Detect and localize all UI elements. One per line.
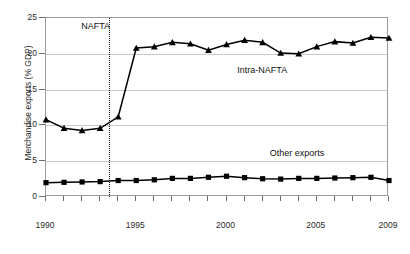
data-point-marker	[116, 178, 121, 183]
data-point-marker	[170, 176, 175, 181]
x-axis-tick-mark	[63, 196, 64, 201]
x-axis-tick-mark	[207, 196, 208, 201]
x-axis-tick-label: 2009	[363, 220, 410, 230]
data-point-marker	[314, 176, 319, 181]
y-axis-tick-label: 15	[9, 84, 37, 94]
data-point-marker	[43, 116, 50, 122]
series-line-intra-nafta	[46, 37, 389, 130]
x-axis-tick-mark	[244, 196, 245, 201]
x-axis-tick-mark	[45, 196, 46, 201]
x-axis-tick-label: 1990	[20, 220, 70, 230]
data-point-marker	[242, 175, 247, 180]
x-axis-tick-mark	[280, 196, 281, 201]
series-line-other-exports	[46, 176, 389, 182]
x-axis-tick-mark	[352, 196, 353, 201]
data-point-marker	[134, 178, 139, 183]
y-axis-tick-label: 5	[9, 155, 37, 165]
x-axis-tick-mark	[388, 196, 389, 201]
other-exports-series-label: Other exports	[270, 148, 325, 158]
chart-container: Merchandise exports (% GDP) 0510152025 N…	[0, 0, 410, 254]
y-axis-tick-label: 20	[9, 48, 37, 58]
data-point-marker	[296, 176, 301, 181]
data-point-marker	[368, 175, 373, 180]
x-axis-tick-mark	[171, 196, 172, 201]
y-axis-tick-label: 25	[9, 12, 37, 22]
intra-nafta-series-label: Intra-NAFTA	[237, 65, 287, 75]
nafta-vertical-line	[109, 18, 110, 197]
data-point-marker	[61, 180, 66, 185]
x-axis-tick-label: 2000	[201, 220, 251, 230]
data-point-marker	[80, 179, 85, 184]
data-point-marker	[278, 177, 283, 182]
plot-area: NAFTA Intra-NAFTA Other exports	[45, 17, 388, 196]
data-point-marker	[188, 176, 193, 181]
x-axis-tick-mark	[262, 196, 263, 201]
y-axis-title: Merchandise exports (% GDP)	[23, 13, 33, 193]
data-point-marker	[386, 178, 391, 183]
data-point-marker	[152, 177, 157, 182]
x-axis-tick-mark	[189, 196, 190, 201]
x-axis-tick-mark	[316, 196, 317, 201]
data-point-marker	[206, 175, 211, 180]
data-point-marker	[43, 180, 48, 185]
y-axis-tick-label: 0	[9, 191, 37, 201]
x-axis-tick-mark	[135, 196, 136, 201]
x-axis-tick-mark	[298, 196, 299, 201]
data-point-marker	[115, 113, 122, 119]
x-axis-tick-mark	[370, 196, 371, 201]
data-point-marker	[224, 174, 229, 179]
data-point-marker	[260, 176, 265, 181]
y-axis-tick-label: 10	[9, 119, 37, 129]
x-axis-tick-mark	[226, 196, 227, 201]
x-axis-tick-mark	[153, 196, 154, 201]
x-axis-tick-mark	[334, 196, 335, 201]
x-axis-tick-mark	[117, 196, 118, 201]
data-point-marker	[350, 175, 355, 180]
data-point-marker	[332, 175, 337, 180]
x-axis-tick-label: 1995	[110, 220, 160, 230]
series-layer	[46, 18, 389, 197]
data-point-marker	[98, 179, 103, 184]
x-axis-tick-mark	[99, 196, 100, 201]
nafta-annotation-label: NAFTA	[81, 21, 110, 31]
x-axis-tick-label: 2005	[291, 220, 341, 230]
x-axis-tick-mark	[81, 196, 82, 201]
